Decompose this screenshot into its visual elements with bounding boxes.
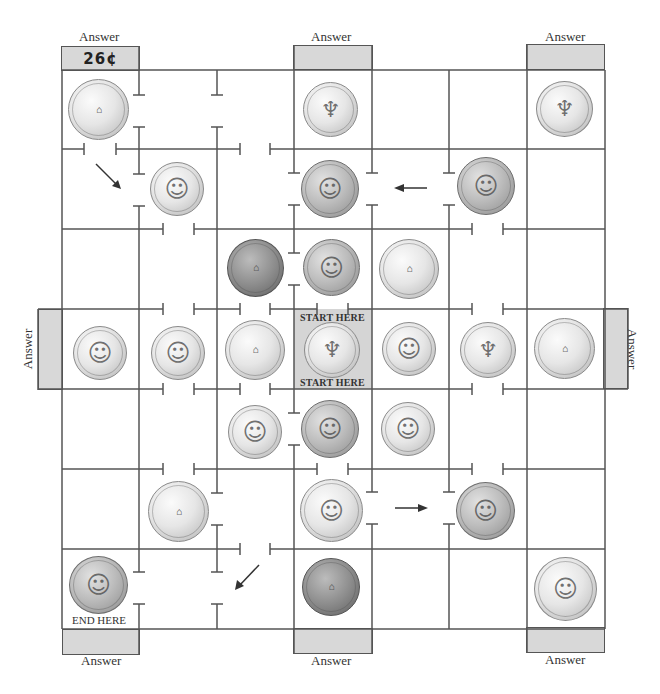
nickel-coin-front: ☺ (534, 557, 597, 621)
dime-coin-front: ☺ (150, 162, 204, 216)
nickel-coin-back: ⌂ (225, 320, 285, 380)
penny-coin-front: ☺ (456, 482, 515, 540)
dime-coin-back: ♆ (304, 322, 360, 378)
penny-coin-front: ☺ (457, 157, 515, 215)
arrow-right-icon (393, 502, 429, 514)
nickel-coin-front: ☺ (300, 479, 363, 542)
nickel-coin-back: ⌂ (148, 481, 209, 542)
penny-coin-front: ☺ (301, 400, 359, 458)
arrow-left-icon (393, 182, 429, 194)
nickel-coin-back: ⌂ (379, 239, 439, 299)
nickel-coin-back: ⌂ (534, 318, 595, 379)
penny-coin-front: ☺ (69, 556, 128, 614)
arrow-down-right-icon (94, 162, 126, 194)
penny-coin-back: ⌂ (227, 239, 284, 297)
coin-maze-puzzle: Answer Answer Answer Answer Answer Answe… (0, 0, 660, 694)
dime-coin-front: ☺ (382, 322, 436, 376)
end-label: END HERE (72, 614, 126, 626)
dime-coin-front: ☺ (151, 326, 205, 380)
nickel-coin-back: ⌂ (68, 79, 129, 140)
dime-coin-front: ☺ (381, 402, 435, 456)
penny-coin-back: ⌂ (302, 558, 360, 616)
dime-coin-front: ☺ (228, 405, 282, 459)
dime-coin-back: ♆ (303, 82, 358, 137)
dime-coin-front: ☺ (73, 326, 127, 380)
dime-coin-back: ♆ (536, 81, 593, 137)
dime-coin-back: ♆ (460, 322, 516, 378)
penny-coin-front: ☺ (301, 160, 359, 218)
arrow-down-left-icon (232, 563, 262, 593)
penny-coin-front: ☺ (303, 239, 360, 296)
